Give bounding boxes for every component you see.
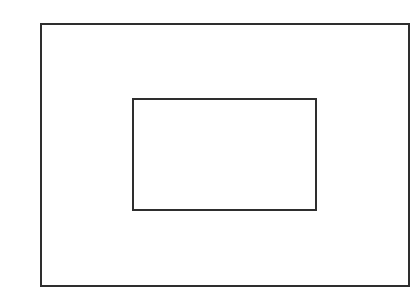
inner-rectangle xyxy=(132,98,317,211)
